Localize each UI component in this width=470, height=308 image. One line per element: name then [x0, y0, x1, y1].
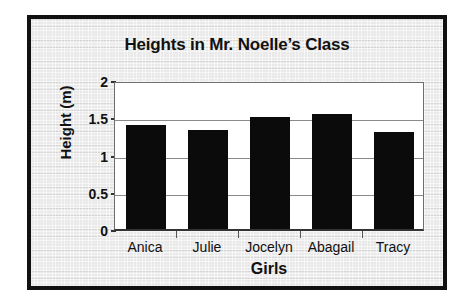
x-axis-tick-label: Jocelyn — [238, 237, 300, 257]
x-axis-title: Girls — [114, 260, 424, 278]
x-axis-tick-labels: AnicaJulieJocelynAbagailTracy — [114, 237, 424, 259]
plot-area — [114, 82, 424, 231]
bar — [250, 117, 290, 229]
chart-title: Heights in Mr. Noelle’s Class — [31, 35, 443, 55]
bar — [312, 114, 352, 229]
bar — [374, 132, 414, 229]
chart-poster-panel: Heights in Mr. Noelle’s Class Height (m)… — [27, 15, 447, 290]
x-axis-tick-label: Tracy — [362, 237, 424, 257]
x-axis-tick-label: Abagail — [300, 237, 362, 257]
bar — [126, 125, 166, 229]
chart-figure: Heights in Mr. Noelle’s Class Height (m)… — [0, 0, 470, 308]
y-axis-tick-marks — [31, 82, 121, 231]
x-axis-tick-label: Anica — [114, 237, 176, 257]
bar — [188, 130, 228, 229]
x-axis-tick-label: Julie — [176, 237, 238, 257]
